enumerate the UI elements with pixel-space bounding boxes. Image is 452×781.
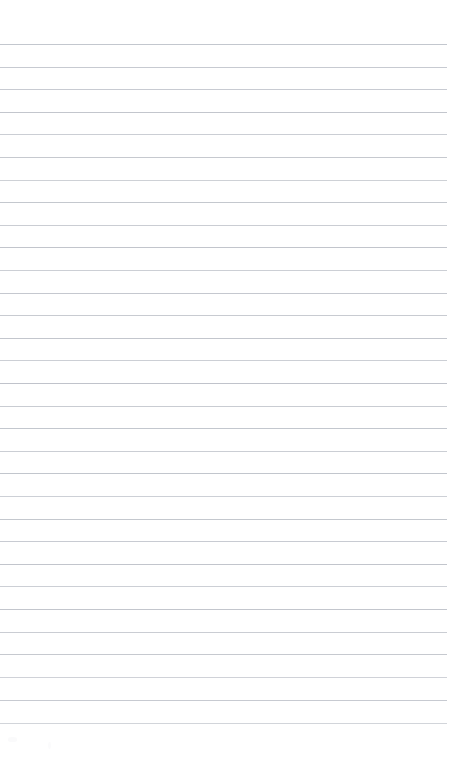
scanned-page bbox=[0, 0, 452, 781]
page-written-content bbox=[0, 0, 452, 781]
